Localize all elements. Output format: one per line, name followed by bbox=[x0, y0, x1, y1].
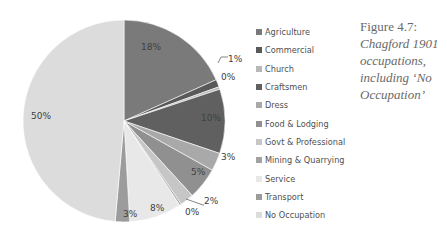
legend-item-transport: Transport bbox=[256, 188, 345, 206]
legend-swatch bbox=[256, 157, 262, 163]
legend-swatch bbox=[256, 47, 262, 53]
figure-caption: Figure 4.7: Chagford 1901 occupations, i… bbox=[360, 18, 447, 103]
legend-item-mining-quarrying: Mining & Quarrying bbox=[256, 151, 345, 169]
caption-line: occupations, bbox=[360, 52, 447, 69]
figure-number: Figure 4.7: bbox=[360, 19, 417, 34]
caption-line: Chagford 1901 bbox=[360, 35, 447, 52]
slice-label: 50% bbox=[31, 111, 51, 121]
legend-item-food-lodging: Food & Lodging bbox=[256, 114, 345, 132]
slice-label: 3% bbox=[123, 209, 138, 219]
legend-label: Craftsmen bbox=[265, 82, 308, 92]
legend-label: Transport bbox=[265, 192, 303, 202]
caption-line: including ‘No bbox=[360, 69, 447, 86]
legend-item-craftsmen: Craftsmen bbox=[256, 78, 345, 96]
leader-line bbox=[218, 57, 228, 63]
legend-label: Mining & Quarrying bbox=[265, 155, 345, 165]
legend-swatch bbox=[256, 102, 262, 108]
legend-item-service: Service bbox=[256, 169, 345, 187]
legend-label: No Occupation bbox=[265, 210, 325, 220]
legend-item-no-occupation: No Occupation bbox=[256, 206, 345, 224]
legend-swatch bbox=[256, 212, 262, 218]
leader-line bbox=[186, 199, 204, 205]
slice-label: 1% bbox=[228, 54, 243, 64]
legend-item-agriculture: Agriculture bbox=[256, 23, 345, 41]
legend-item-commercial: Commercial bbox=[256, 41, 345, 59]
slice-label: 10% bbox=[201, 113, 221, 123]
legend-item-dress: Dress bbox=[256, 96, 345, 114]
slice-label: 3% bbox=[221, 152, 236, 162]
slice-label: 5% bbox=[191, 167, 206, 177]
legend-label: Service bbox=[265, 174, 295, 184]
legend-swatch bbox=[256, 29, 262, 35]
legend-label: Agriculture bbox=[265, 27, 310, 37]
slice-label: 18% bbox=[141, 42, 161, 52]
slice-label: 2% bbox=[204, 196, 219, 206]
legend-swatch bbox=[256, 121, 262, 127]
legend-label: Govt & Professional bbox=[265, 137, 345, 147]
legend-label: Food & Lodging bbox=[265, 119, 329, 129]
caption-line: Occupation’ bbox=[360, 86, 447, 103]
legend-swatch bbox=[256, 176, 262, 182]
legend-item-church: Church bbox=[256, 60, 345, 78]
legend-swatch bbox=[256, 139, 262, 145]
legend-label: Church bbox=[265, 64, 294, 74]
legend-swatch bbox=[256, 84, 262, 90]
slice-label: 0% bbox=[221, 72, 236, 82]
pie-slices bbox=[23, 20, 225, 222]
legend-swatch bbox=[256, 194, 262, 200]
slice-label: 0% bbox=[185, 207, 200, 217]
legend-label: Dress bbox=[265, 100, 288, 110]
legend-label: Commercial bbox=[265, 45, 314, 55]
legend: Agriculture Commercial Church Craftsmen … bbox=[256, 23, 345, 224]
legend-item-govt-professional: Govt & Professional bbox=[256, 133, 345, 151]
legend-swatch bbox=[256, 66, 262, 72]
slice-label: 8% bbox=[150, 203, 165, 213]
